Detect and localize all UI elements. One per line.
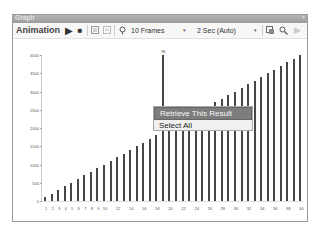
y-tick-label: 3000 <box>19 90 39 95</box>
frames-dropdown-arrow-icon[interactable]: ▾ <box>183 27 186 33</box>
x-tick-label: 12 <box>113 206 123 211</box>
menu-item-retrieve-this-result[interactable]: Retrieve This Result <box>154 107 252 120</box>
bar[interactable] <box>155 135 157 201</box>
y-tick-mark <box>40 73 42 74</box>
x-tick-label: 38 <box>283 206 293 211</box>
x-tick-label: 32 <box>244 206 254 211</box>
export-data-icon[interactable] <box>102 25 112 35</box>
context-menu: Retrieve This Result Select All <box>153 106 253 131</box>
x-tick-label: 26 <box>205 206 215 211</box>
bar[interactable] <box>247 84 249 201</box>
title-bar[interactable]: Graph × <box>13 15 307 23</box>
x-tick-label: 14 <box>126 206 136 211</box>
bar[interactable] <box>299 55 301 201</box>
bar[interactable] <box>260 77 262 201</box>
y-tick-label: 4000 <box>19 53 39 58</box>
bar[interactable] <box>254 81 256 201</box>
bar[interactable] <box>44 197 46 201</box>
export-image-icon[interactable] <box>90 25 100 35</box>
bar[interactable] <box>142 143 144 201</box>
y-tick-label: 0 <box>19 199 39 204</box>
chart-settings-icon[interactable] <box>265 25 275 35</box>
y-tick-label: 500 <box>19 181 39 186</box>
bar[interactable] <box>182 121 184 201</box>
next-icon[interactable]: ▶ <box>292 25 302 35</box>
bar[interactable] <box>57 190 59 201</box>
zoom-icon[interactable] <box>278 25 288 35</box>
y-tick-mark <box>40 92 42 93</box>
bar[interactable] <box>103 165 105 202</box>
y-tick-label: 1500 <box>19 144 39 149</box>
graph-window: Graph × Animation ▶ ■ 10 Frames ▾ 2 Sec … <box>12 14 308 222</box>
separator <box>114 25 115 36</box>
y-tick-mark <box>40 55 42 56</box>
speed-dropdown[interactable]: 2 Sec (Auto) <box>197 24 236 37</box>
bar[interactable] <box>286 62 288 201</box>
frames-dropdown[interactable]: 10 Frames <box>131 24 164 37</box>
bar[interactable] <box>168 128 170 201</box>
close-icon[interactable]: × <box>301 14 305 20</box>
bar[interactable] <box>293 59 295 201</box>
separator <box>87 25 88 36</box>
y-tick-mark <box>40 128 42 129</box>
y-tick-mark <box>40 165 42 166</box>
bar[interactable] <box>83 175 85 201</box>
x-tick-label: 20 <box>165 206 175 211</box>
separator <box>262 25 263 36</box>
bar[interactable] <box>51 194 53 201</box>
window-title: Graph <box>15 14 34 21</box>
x-tick-label: 10 <box>100 206 110 211</box>
y-tick-label: 2000 <box>19 126 39 131</box>
x-tick-label: 16 <box>139 206 149 211</box>
speed-dropdown-arrow-icon[interactable]: ▾ <box>254 27 257 33</box>
lightbulb-icon[interactable] <box>117 25 127 35</box>
y-tick-mark <box>40 183 42 184</box>
bar[interactable] <box>267 73 269 201</box>
x-axis <box>41 201 303 202</box>
animation-label: Animation <box>16 24 60 37</box>
y-tick-label: 2500 <box>19 108 39 113</box>
bar[interactable] <box>129 150 131 201</box>
x-tick-label: 36 <box>270 206 280 211</box>
x-tick-label: 34 <box>257 206 267 211</box>
bar[interactable] <box>96 168 98 201</box>
bar[interactable] <box>273 70 275 201</box>
bar[interactable] <box>175 124 177 201</box>
y-tick-mark <box>40 110 42 111</box>
x-tick-label: 30 <box>231 206 241 211</box>
bar[interactable] <box>110 161 112 201</box>
bar[interactable] <box>116 157 118 201</box>
x-tick-label: 28 <box>218 206 228 211</box>
x-tick-label: 24 <box>192 206 202 211</box>
bar[interactable] <box>70 183 72 201</box>
selected-bar-label: 76 <box>161 49 165 54</box>
bar[interactable] <box>241 88 243 201</box>
x-tick-label: 40 <box>296 206 306 211</box>
bar[interactable] <box>280 66 282 201</box>
play-icon[interactable]: ▶ <box>64 25 74 35</box>
bar[interactable] <box>136 146 138 201</box>
bar[interactable] <box>149 139 151 201</box>
y-tick-label: 3500 <box>19 71 39 76</box>
y-tick-mark <box>40 201 42 202</box>
toolbar: Animation ▶ ■ 10 Frames ▾ 2 Sec (Auto) ▾… <box>13 23 307 39</box>
menu-item-select-all[interactable]: Select All <box>154 120 252 131</box>
stop-icon[interactable]: ■ <box>75 25 85 35</box>
bar[interactable] <box>123 154 125 201</box>
y-tick-label: 1000 <box>19 163 39 168</box>
bar[interactable] <box>77 179 79 201</box>
x-tick-label: 18 <box>152 206 162 211</box>
y-tick-mark <box>40 146 42 147</box>
bar[interactable] <box>64 186 66 201</box>
x-tick-label: 22 <box>179 206 189 211</box>
bar[interactable] <box>90 172 92 201</box>
